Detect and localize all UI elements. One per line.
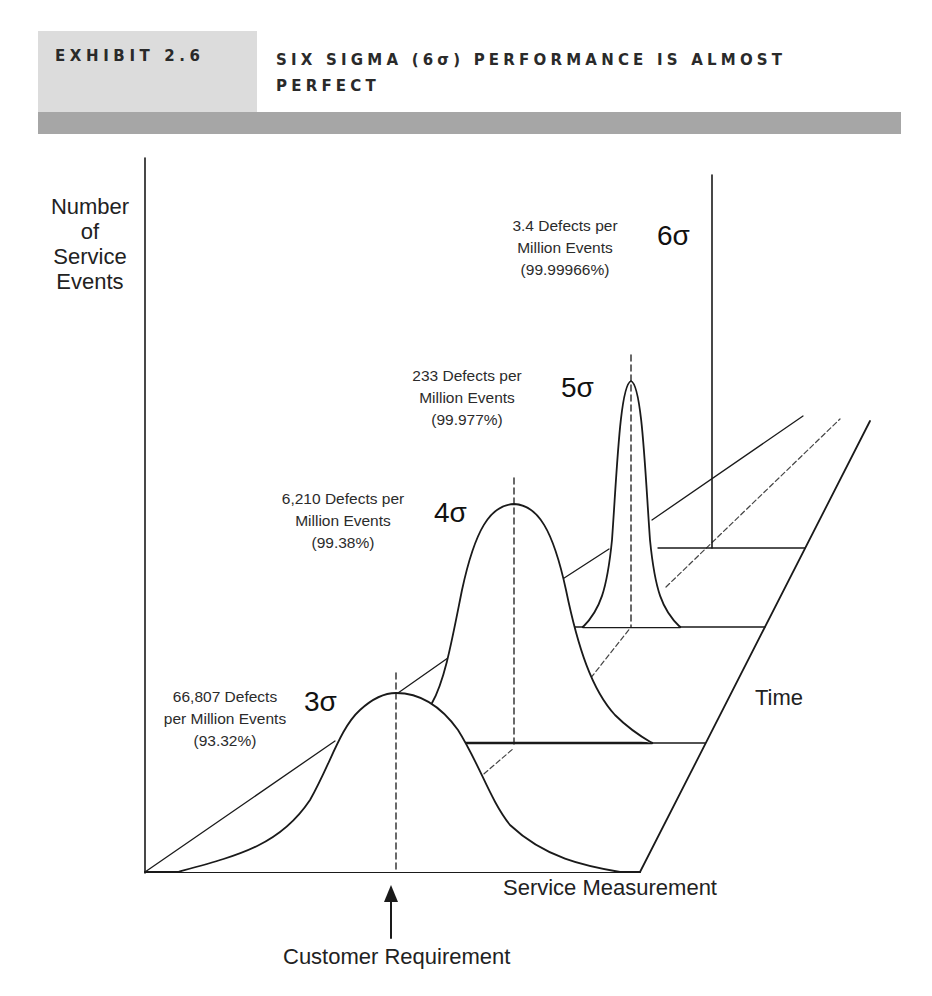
requirement-track: [478, 748, 514, 779]
six-sigma-label: 6σ: [657, 220, 690, 252]
three-sigma-annotation: 66,807 Defects per Million Events (93.32…: [164, 686, 286, 752]
annotation-line: (93.32%): [164, 730, 286, 752]
y-axis-label-line: Number: [51, 194, 129, 219]
five-sigma-label: 5σ: [561, 372, 594, 404]
annotation-line: Million Events: [412, 387, 521, 409]
customer-requirement-label: Customer Requirement: [283, 944, 510, 970]
time-axis-edge: [640, 421, 870, 872]
annotation-line: Million Events: [512, 237, 617, 259]
four-sigma-label: 4σ: [434, 497, 467, 529]
time-axis-label: Time: [755, 685, 803, 711]
y-axis-label-line: Service: [51, 244, 129, 269]
three-sigma-label: 3σ: [304, 686, 337, 718]
x-axis-label: Service Measurement: [503, 875, 717, 901]
annotation-line: per Million Events: [164, 708, 286, 730]
requirement-track: [666, 419, 840, 587]
annotation-line: (99.977%): [412, 409, 521, 431]
four-sigma-annotation: 6,210 Defects per Million Events (99.38%…: [282, 488, 404, 554]
annotation-line: Million Events: [282, 510, 404, 532]
annotation-line: (99.38%): [282, 532, 404, 554]
arrow-up-icon: [384, 885, 398, 902]
y-axis-label-line: of: [51, 219, 129, 244]
annotation-line: 3.4 Defects per: [512, 215, 617, 237]
y-axis-label-line: Events: [51, 269, 129, 294]
six-sigma-annotation: 3.4 Defects per Million Events (99.99966…: [512, 215, 617, 281]
y-axis-label: Number of Service Events: [51, 194, 129, 294]
requirement-track: [586, 627, 631, 684]
annotation-line: (99.99966%): [512, 259, 617, 281]
annotation-line: 6,210 Defects per: [282, 488, 404, 510]
envelope-line: [558, 549, 609, 582]
annotation-line: 66,807 Defects: [164, 686, 286, 708]
annotation-line: 233 Defects per: [412, 365, 521, 387]
envelope-line: [652, 416, 803, 520]
five-sigma-annotation: 233 Defects per Million Events (99.977%): [412, 365, 521, 431]
